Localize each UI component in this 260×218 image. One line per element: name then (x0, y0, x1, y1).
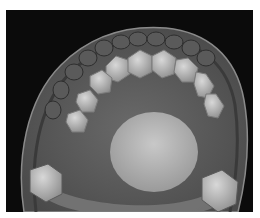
dental-scan-image (6, 10, 253, 212)
palate (110, 112, 198, 192)
dental-arch-illustration (6, 10, 253, 212)
